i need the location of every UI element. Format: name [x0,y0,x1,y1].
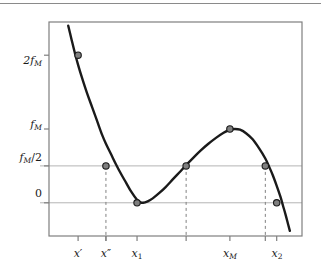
y-tick-label-2fm: 2fM [8,55,42,67]
y-tick-label-fm: fM [8,119,42,131]
marker-xM-maximum[interactable] [227,126,233,132]
x-tick-label-xm: xM [223,248,237,260]
figure-container: 2fM fM fM/2 0 x′ x″ x1 xM x2 [0,0,321,270]
marker-x1-minimum[interactable] [134,200,140,206]
marker-x2-zero[interactable] [274,200,280,206]
x-tick-label-x2: x2 [272,248,283,260]
plot-canvas [0,0,321,270]
marker-mid-half[interactable] [183,163,189,169]
x-tick-label-x-doubleprime: x″ [101,248,111,259]
x-tick-label-x-prime: x′ [74,248,83,259]
y-tick-label-zero: 0 [8,188,42,199]
marker-x-doubleprime[interactable] [103,163,109,169]
marker-right-half[interactable] [262,163,268,169]
marker-x-prime[interactable] [75,52,81,58]
x-tick-label-x1: x1 [132,248,143,260]
y-tick-label-fm-half: fM/2 [0,152,42,164]
plot-background [49,22,302,236]
